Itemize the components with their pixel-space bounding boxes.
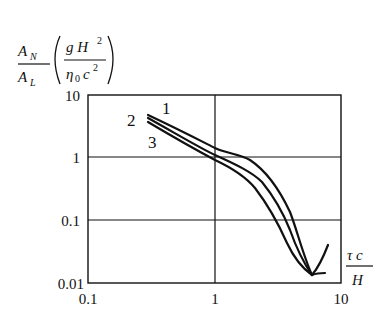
svg-text:0.1: 0.1 (61, 213, 80, 229)
curve-3 (148, 122, 312, 275)
svg-text:2: 2 (97, 35, 102, 46)
curve-label-2: 2 (127, 111, 136, 130)
svg-text:g H: g H (66, 39, 89, 55)
x-axis-label: τ c H (346, 247, 373, 288)
curves (148, 115, 328, 275)
svg-text:τ c: τ c (347, 247, 363, 263)
curve-2 (148, 118, 325, 275)
y-axis-label: A N A L g H 2 η 0 c 2 (17, 35, 113, 88)
curve-label-3: 3 (148, 133, 157, 152)
plot-area (88, 95, 341, 283)
y-label-denominator: A (17, 69, 28, 85)
svg-text:H: H (351, 272, 364, 288)
y-axis-ticks: 10 1 0.1 0.01 (58, 88, 84, 292)
svg-text:10: 10 (65, 88, 80, 104)
svg-text:0: 0 (75, 73, 80, 84)
svg-text:10: 10 (334, 291, 349, 307)
svg-text:N: N (29, 51, 38, 62)
svg-text:2: 2 (93, 62, 98, 73)
svg-text:c: c (83, 66, 90, 82)
curve-label-1: 1 (162, 99, 171, 118)
svg-text:1: 1 (211, 291, 219, 307)
svg-text:0.1: 0.1 (79, 291, 98, 307)
svg-text:0.01: 0.01 (58, 276, 84, 292)
y-label-numerator: A (17, 43, 28, 59)
chart: A N A L g H 2 η 0 c 2 10 1 0.1 0.01 0.1 … (0, 0, 391, 326)
curve-labels: 1 2 3 (127, 99, 171, 152)
svg-text:η: η (66, 66, 73, 82)
x-axis-ticks: 0.1 1 10 (79, 291, 349, 307)
svg-text:L: L (29, 77, 36, 88)
svg-text:1: 1 (73, 150, 81, 166)
